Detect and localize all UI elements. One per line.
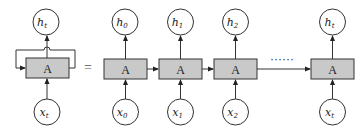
folded-rnn: ht A xt	[16, 9, 75, 125]
input-node-xt-folded: xt	[34, 99, 60, 125]
unrolled-step-2: h2 A x2	[214, 9, 257, 125]
output-node-ht-folded: ht	[33, 9, 59, 35]
ellipsis: ······	[270, 52, 294, 66]
equals-sign: =	[84, 60, 92, 75]
svg-text:A: A	[121, 63, 130, 77]
svg-text:A: A	[176, 63, 185, 77]
svg-text:A: A	[328, 63, 337, 77]
unrolled-step-0: h0 A x0	[104, 9, 147, 125]
unrolled-step-1: h1 A x1	[159, 9, 202, 125]
rnn-diagram: ht A xt = h0 A x0 h1	[0, 0, 364, 135]
svg-text:A: A	[43, 62, 52, 76]
cell-A-folded: A	[26, 58, 69, 78]
svg-text:A: A	[231, 63, 240, 77]
unrolled-step-t: ht A xt	[311, 9, 354, 125]
